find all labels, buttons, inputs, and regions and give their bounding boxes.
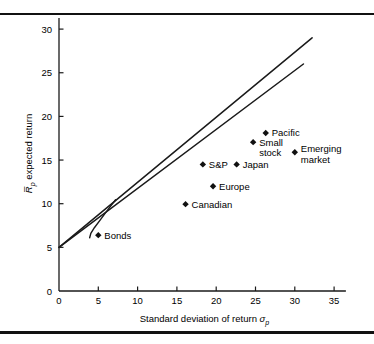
diamond-marker xyxy=(292,149,298,155)
data-point[interactable]: Bonds xyxy=(95,230,131,241)
chart-canvas: 05101520253035051015202530 BondsCanadian… xyxy=(0,18,374,328)
diamond-marker xyxy=(182,201,188,207)
point-label: market xyxy=(301,154,330,165)
data-point[interactable]: Japan xyxy=(233,159,268,170)
x-tick-label: 35 xyxy=(329,295,340,306)
point-label: stock xyxy=(259,147,281,158)
y-tick-label: 5 xyxy=(47,242,52,253)
scatter-plot: 05101520253035051015202530 BondsCanadian… xyxy=(0,18,374,328)
figure-container: 05101520253035051015202530 BondsCanadian… xyxy=(0,0,374,344)
x-tick-label: 15 xyxy=(172,295,183,306)
diamond-marker xyxy=(200,161,206,167)
data-point[interactable]: Emergingmarket xyxy=(292,143,342,165)
diamond-marker xyxy=(210,183,216,189)
y-tick-label: 0 xyxy=(47,286,52,297)
diamond-marker xyxy=(263,130,269,136)
x-tick-label: 20 xyxy=(211,295,222,306)
x-tick-label: 25 xyxy=(250,295,261,306)
data-points: BondsCanadianEuropeS&PJapanPacificSmalls… xyxy=(95,127,341,240)
point-label: Emerging xyxy=(301,143,342,154)
data-point[interactable]: Europe xyxy=(210,181,250,192)
y-tick-label: 10 xyxy=(41,198,52,209)
top-rule xyxy=(0,13,374,15)
y-tick-label: 30 xyxy=(41,24,52,35)
data-point[interactable]: Smallstock xyxy=(250,137,283,159)
diamond-marker xyxy=(250,139,256,145)
data-point[interactable]: Canadian xyxy=(182,199,232,210)
x-tick-label: 10 xyxy=(132,295,143,306)
x-tick-label: 30 xyxy=(290,295,301,306)
point-label: Canadian xyxy=(192,199,233,210)
y-axis-title: R̅p expected return xyxy=(23,114,37,193)
point-label: Japan xyxy=(243,159,269,170)
x-tick-label: 0 xyxy=(56,295,61,306)
point-label: S&P xyxy=(209,159,228,170)
y-tick-label: 20 xyxy=(41,111,52,122)
y-tick-label: 15 xyxy=(41,155,52,166)
bottom-rule xyxy=(0,331,374,334)
point-label: Europe xyxy=(219,181,250,192)
diamond-marker xyxy=(233,161,239,167)
point-label: Bonds xyxy=(104,230,131,241)
diamond-marker xyxy=(95,232,101,238)
x-tick-label: 5 xyxy=(96,295,101,306)
point-label: Small xyxy=(259,137,283,148)
x-axis-title: Standard deviation of return σp xyxy=(140,313,270,327)
data-point[interactable]: S&P xyxy=(200,159,228,170)
y-tick-label: 25 xyxy=(41,67,52,78)
